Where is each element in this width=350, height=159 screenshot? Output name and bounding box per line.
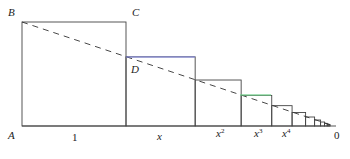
label-length-1: 1 (72, 132, 78, 143)
square-4 (272, 106, 292, 126)
label-length-x3: x3 (254, 128, 262, 139)
square-8 (321, 122, 325, 126)
x2-exponent: 2 (221, 127, 225, 135)
square-6 (306, 117, 315, 126)
dashed-diagonal-line (22, 22, 334, 126)
label-point-c: C (132, 7, 139, 18)
x4-exponent: 4 (287, 127, 291, 135)
square-0 (22, 22, 126, 126)
x3-exponent: 3 (259, 127, 263, 135)
label-length-x2: x2 (216, 128, 224, 139)
diagram-canvas (0, 0, 350, 159)
label-length-x: x (157, 131, 162, 142)
label-point-b: B (8, 7, 15, 18)
label-zero: 0 (334, 130, 340, 141)
label-point-d: D (131, 64, 139, 75)
square-2 (195, 80, 241, 126)
label-length-x4: x4 (282, 128, 290, 139)
label-point-a: A (8, 130, 15, 141)
